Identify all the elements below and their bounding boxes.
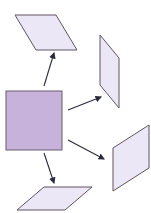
central-square <box>6 91 62 150</box>
transformation-diagram <box>0 0 151 213</box>
arrow-to-top <box>44 53 54 86</box>
arrow-to-right-lower <box>68 140 104 159</box>
parallelogram-right-lower <box>113 125 149 191</box>
parallelogram-bottom <box>17 187 92 210</box>
arrow-to-bottom <box>44 153 54 183</box>
parallelogram-right-upper <box>100 35 119 108</box>
parallelogram-top <box>15 15 77 50</box>
arrow-to-right-upper <box>68 97 101 110</box>
